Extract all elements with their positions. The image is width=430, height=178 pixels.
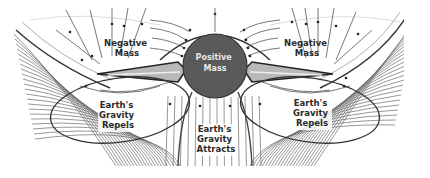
earth-repels-left-label: Earth's Gravity Repels xyxy=(99,100,137,130)
arrow-head xyxy=(141,23,144,26)
arrow-head xyxy=(305,23,308,26)
arrow-head xyxy=(259,103,262,106)
arrow-head xyxy=(91,55,94,58)
arrow-head xyxy=(81,59,84,62)
arrow-head xyxy=(335,25,338,28)
arrow-head xyxy=(317,21,320,24)
arrow-head xyxy=(181,55,184,58)
arrow-head xyxy=(199,105,202,108)
arrow-head xyxy=(229,105,232,108)
arrow-head xyxy=(245,39,248,42)
arrow-head xyxy=(291,21,294,24)
earth-repels-right-label: Earth's Gravity Repels xyxy=(293,98,331,128)
arrow-head xyxy=(183,47,186,50)
earth-attracts-label: Earth's Gravity Attracts xyxy=(197,124,236,154)
field-line xyxy=(34,131,180,172)
arrow-head xyxy=(69,31,72,34)
arrow-head xyxy=(247,47,250,50)
gravity-field-diagram: Negative Mass Negative Mass Positive Mas… xyxy=(0,0,430,178)
arrow-head xyxy=(357,33,360,36)
arrow-head xyxy=(243,29,246,32)
field-line xyxy=(245,96,247,170)
arrow-head xyxy=(345,77,348,80)
arrow-head xyxy=(169,103,172,106)
field-line xyxy=(35,135,183,172)
field-line xyxy=(195,96,196,170)
arrow-head xyxy=(189,29,192,32)
field-line xyxy=(238,96,239,170)
field-line xyxy=(173,96,175,170)
arrow-head xyxy=(249,55,252,58)
arrow-head xyxy=(111,23,114,26)
arrow-head xyxy=(123,25,126,28)
